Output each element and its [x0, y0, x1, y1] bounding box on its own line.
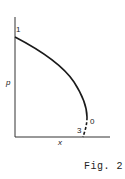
- point-label-3: 3: [77, 127, 81, 135]
- point-label-1: 1: [16, 26, 20, 34]
- dashed-segment: [83, 117, 87, 137]
- solid-curve: [15, 37, 87, 117]
- point-label-0: 0: [90, 118, 94, 126]
- figure-caption: Fig. 2: [84, 161, 123, 172]
- figure: 1 p 0 3 x Fig. 2: [0, 0, 125, 179]
- x-axis-label: x: [58, 139, 62, 147]
- y-axis-label: p: [6, 79, 10, 87]
